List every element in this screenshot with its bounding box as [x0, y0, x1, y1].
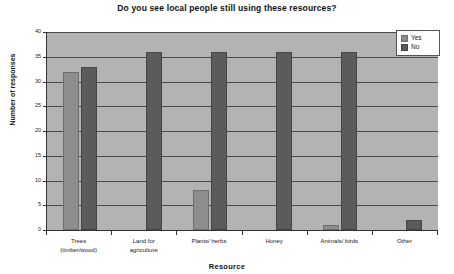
x-category-label: Honey [242, 237, 307, 246]
legend-item-yes: Yes [401, 34, 436, 43]
chart-title: Do you see local people still using thes… [0, 3, 454, 13]
legend-label-no: No [411, 44, 419, 51]
y-tick-label: 15 [19, 153, 41, 159]
bar-no-0 [81, 67, 97, 230]
plot-area [46, 32, 438, 231]
bar-yes-2 [193, 190, 209, 230]
bar-no-5 [406, 220, 422, 230]
bar-no-4 [341, 52, 357, 230]
x-category-label: Plants/ herbs [176, 237, 241, 246]
x-tick-mark [307, 231, 308, 235]
bar-chart: Do you see local people still using thes… [0, 0, 454, 274]
x-axis-title: Resource [0, 262, 454, 271]
x-category-label: Other [372, 237, 437, 246]
x-category-label: Animals/ birds [307, 237, 372, 246]
x-category-label: Trees(timber/wood) [46, 237, 111, 254]
legend-swatch-no-icon [401, 44, 408, 51]
x-tick-mark [111, 231, 112, 235]
x-tick-mark [46, 231, 47, 235]
y-tick-label: 0 [19, 227, 41, 233]
y-tick-label: 40 [19, 29, 41, 35]
y-axis-title: Number of responses [9, 30, 16, 150]
bar-no-2 [211, 52, 227, 230]
x-tick-mark [176, 231, 177, 235]
bar-no-1 [146, 52, 162, 230]
y-tick-label: 35 [19, 54, 41, 60]
y-tick-label: 5 [19, 202, 41, 208]
x-tick-mark [242, 231, 243, 235]
y-tick-label: 20 [19, 128, 41, 134]
y-tick-label: 10 [19, 178, 41, 184]
bars-layer [47, 32, 438, 230]
legend-item-no: No [401, 43, 436, 52]
x-tick-mark [437, 231, 438, 235]
x-category-label: Land foragriculture [111, 237, 176, 254]
chart-legend: Yes No [396, 30, 440, 56]
bar-no-3 [276, 52, 292, 230]
legend-label-yes: Yes [411, 35, 422, 42]
bar-yes-0 [63, 72, 79, 230]
y-tick-label: 30 [19, 79, 41, 85]
bar-yes-4 [323, 225, 339, 230]
y-tick-label: 25 [19, 103, 41, 109]
x-tick-mark [372, 231, 373, 235]
legend-swatch-yes-icon [401, 35, 408, 42]
